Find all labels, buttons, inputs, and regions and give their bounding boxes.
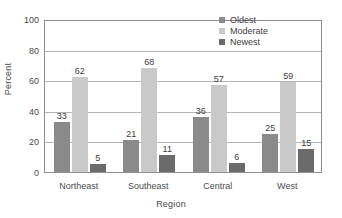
legend: OldestModerateNewest bbox=[219, 15, 268, 48]
legend-swatch-icon bbox=[219, 39, 225, 45]
bar bbox=[123, 140, 139, 172]
bar-chart: Percent 020406080100 3362521681136576255… bbox=[0, 0, 342, 218]
y-axis-tick-label: 80 bbox=[14, 47, 39, 56]
bar bbox=[298, 149, 314, 172]
y-axis-tick-label: 20 bbox=[14, 138, 39, 147]
bar bbox=[280, 82, 296, 172]
x-axis-tick-label: West bbox=[253, 181, 323, 191]
bar-value-label: 15 bbox=[292, 139, 320, 148]
x-axis-tick-label: Southeast bbox=[114, 181, 184, 191]
bar bbox=[90, 164, 106, 172]
bar-value-label: 6 bbox=[223, 153, 251, 162]
legend-item: Newest bbox=[219, 37, 268, 47]
legend-item: Moderate bbox=[219, 26, 268, 36]
x-axis-tick-label: Northeast bbox=[44, 181, 114, 191]
bar bbox=[141, 68, 157, 172]
bar-value-label: 62 bbox=[66, 67, 94, 76]
y-axis-tick-label: 100 bbox=[14, 16, 39, 25]
y-axis-tick-label: 0 bbox=[14, 169, 39, 178]
y-axis-tick-label: 60 bbox=[14, 77, 39, 86]
bar-value-label: 68 bbox=[135, 58, 163, 67]
bar-value-label: 11 bbox=[153, 145, 181, 154]
bar bbox=[159, 155, 175, 172]
bar-value-label: 5 bbox=[84, 154, 112, 163]
legend-item-label: Moderate bbox=[230, 27, 268, 36]
legend-item-label: Oldest bbox=[230, 16, 256, 25]
legend-item-label: Newest bbox=[230, 38, 260, 47]
legend-item: Oldest bbox=[219, 15, 268, 25]
y-axis-title: Percent bbox=[3, 49, 13, 109]
bar bbox=[54, 122, 70, 172]
bar-value-label: 59 bbox=[274, 72, 302, 81]
x-axis-title: Region bbox=[0, 199, 342, 209]
plot-area: 3362521681136576255915 bbox=[44, 20, 322, 173]
legend-swatch-icon bbox=[219, 17, 225, 23]
bar bbox=[193, 117, 209, 172]
bar bbox=[229, 163, 245, 172]
x-axis-tick-label: Central bbox=[183, 181, 253, 191]
y-axis-tick-label: 40 bbox=[14, 108, 39, 117]
legend-swatch-icon bbox=[219, 28, 225, 34]
bar bbox=[262, 134, 278, 172]
gridline bbox=[45, 51, 321, 52]
bar-value-label: 57 bbox=[205, 75, 233, 84]
